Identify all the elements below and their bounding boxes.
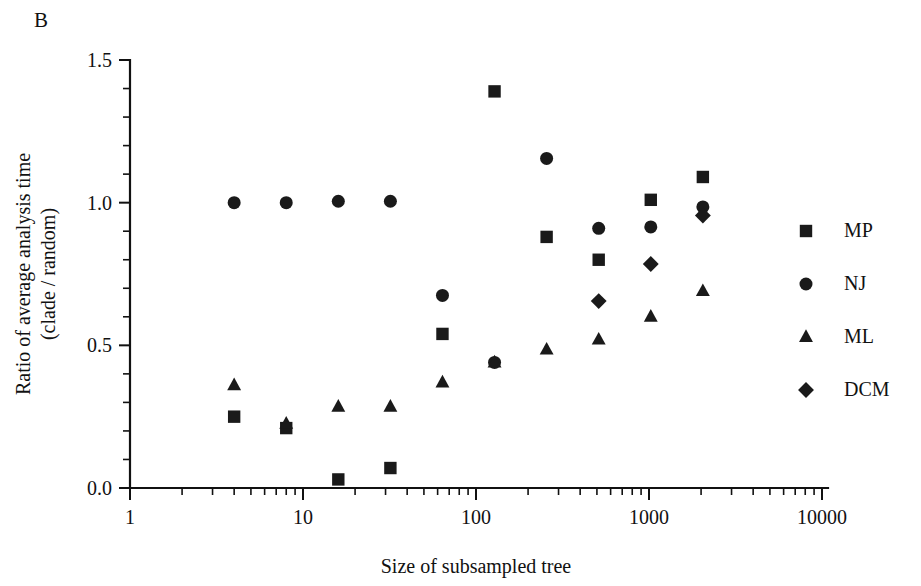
data-point-ml bbox=[540, 342, 554, 355]
data-points bbox=[227, 85, 711, 485]
series-nj bbox=[228, 152, 710, 369]
y-tick-label: 0.5 bbox=[87, 334, 112, 356]
legend-item-dcm: DCM bbox=[798, 378, 890, 400]
data-point-mp bbox=[384, 462, 396, 474]
data-point-nj bbox=[644, 220, 657, 233]
y-tick-label: 1.5 bbox=[87, 49, 112, 71]
x-axis-title: Size of subsampled tree bbox=[381, 555, 572, 578]
data-point-ml bbox=[696, 283, 710, 296]
data-point-nj bbox=[280, 196, 293, 209]
diamond-marker bbox=[798, 382, 814, 398]
legend-label: MP bbox=[844, 219, 873, 241]
triangle-marker bbox=[799, 329, 813, 342]
legend-item-nj: NJ bbox=[799, 272, 866, 294]
data-point-ml bbox=[227, 378, 241, 391]
legend-label: NJ bbox=[844, 272, 866, 294]
data-point-mp bbox=[228, 410, 240, 422]
y-axis-title-line2: (clade / random) bbox=[37, 208, 60, 340]
x-tick-label: 100 bbox=[461, 506, 491, 528]
data-point-nj bbox=[228, 196, 241, 209]
legend-item-ml: ML bbox=[799, 325, 874, 347]
y-tick-label: 0.0 bbox=[87, 477, 112, 499]
square-marker bbox=[800, 225, 812, 237]
x-tick-label: 10000 bbox=[797, 506, 847, 528]
data-point-nj bbox=[332, 195, 345, 208]
data-point-nj bbox=[384, 195, 397, 208]
data-point-mp bbox=[593, 254, 605, 266]
x-tick-label: 10 bbox=[293, 506, 313, 528]
data-point-nj bbox=[540, 152, 553, 165]
scatter-plot: 0.00.51.01.5110100100010000 MPNJMLDCM Si… bbox=[0, 0, 921, 586]
data-point-mp bbox=[540, 231, 552, 243]
data-point-ml bbox=[331, 399, 345, 412]
y-axis-title-line1: Ratio of average analysis time bbox=[12, 153, 35, 395]
data-point-mp bbox=[436, 328, 448, 340]
x-tick-label: 1 bbox=[125, 506, 135, 528]
data-point-nj bbox=[436, 289, 449, 302]
data-point-ml bbox=[592, 332, 606, 345]
data-point-mp bbox=[488, 85, 500, 97]
series-ml bbox=[227, 283, 710, 428]
series-mp bbox=[228, 85, 709, 485]
data-point-ml bbox=[644, 309, 658, 322]
data-point-nj bbox=[592, 222, 605, 235]
data-point-dcm bbox=[643, 256, 659, 272]
legend-label: DCM bbox=[844, 378, 890, 400]
axis-spine bbox=[130, 60, 828, 488]
data-point-dcm bbox=[591, 293, 607, 309]
x-tick-label: 1000 bbox=[629, 506, 669, 528]
data-point-mp bbox=[332, 473, 344, 485]
panel-label: B bbox=[34, 8, 48, 33]
data-point-mp bbox=[697, 171, 709, 183]
legend-item-mp: MP bbox=[800, 219, 873, 241]
data-point-ml bbox=[436, 375, 450, 388]
figure-panel-b: B 0.00.51.01.5110100100010000 MPNJMLDCM … bbox=[0, 0, 921, 586]
legend: MPNJMLDCM bbox=[798, 219, 890, 400]
tick-labels: 0.00.51.01.5110100100010000 bbox=[87, 49, 847, 528]
legend-label: ML bbox=[844, 325, 874, 347]
axis-group bbox=[130, 60, 828, 488]
tick-marks bbox=[119, 60, 822, 500]
data-point-ml bbox=[383, 399, 397, 412]
data-point-mp bbox=[645, 194, 657, 206]
y-tick-label: 1.0 bbox=[87, 192, 112, 214]
circle-marker bbox=[799, 277, 812, 290]
